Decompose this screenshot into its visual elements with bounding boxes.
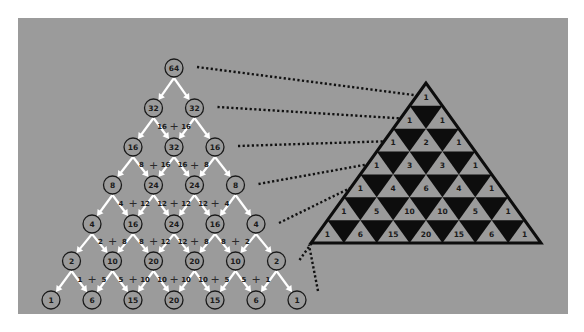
split-value-left: 10 <box>157 276 167 284</box>
split-value-right: 16 <box>161 161 171 169</box>
cell-value: 15 <box>388 230 398 239</box>
tree-node: 10 <box>227 252 245 270</box>
cell-value: 10 <box>437 207 447 216</box>
split-value-left: 12 <box>178 238 188 246</box>
node-value: 20 <box>148 257 158 266</box>
arrow-shaft <box>277 271 290 288</box>
tree-node: 32 <box>165 138 183 156</box>
tree-node: 2 <box>268 252 286 270</box>
split-value-right: 8 <box>204 161 209 169</box>
split-value-left: 5 <box>119 276 124 284</box>
cell-value: 20 <box>421 230 431 239</box>
dotted-connector <box>238 141 385 146</box>
tree-node: 16 <box>206 138 224 156</box>
node-value: 8 <box>233 181 238 190</box>
arrow-shaft <box>59 271 72 288</box>
tree-node: 20 <box>145 252 163 270</box>
node-value: 10 <box>230 257 240 266</box>
cell-value: 10 <box>404 207 414 216</box>
split-value-right: 1 <box>266 276 271 284</box>
split-value-right: 4 <box>225 200 230 208</box>
split-value-right: 16 <box>181 123 191 131</box>
arrow-shaft <box>100 195 113 212</box>
node-value: 24 <box>148 181 158 190</box>
arrow-shaft <box>121 157 133 173</box>
dotted-connector <box>218 107 402 118</box>
tree-node: 2 <box>63 252 81 270</box>
node-value: 32 <box>148 104 158 113</box>
split-value-left: 2 <box>98 238 103 246</box>
plus-sign: + <box>108 235 117 248</box>
cell-value: 6 <box>358 230 363 239</box>
cell-value: 5 <box>374 207 379 216</box>
arrow-shaft <box>174 78 187 96</box>
node-value: 64 <box>169 64 179 73</box>
cell-value: 6 <box>423 184 428 193</box>
cell-value: 1 <box>407 116 412 125</box>
dotted-connector <box>309 245 318 291</box>
split-value-left: 5 <box>242 276 247 284</box>
cell-value: 2 <box>423 138 428 147</box>
cell-value: 3 <box>407 161 412 170</box>
node-value: 15 <box>210 296 220 305</box>
plus-sign: + <box>231 235 240 248</box>
tree-node: 16 <box>124 138 142 156</box>
arrow-shaft <box>215 157 227 173</box>
plus-sign: + <box>87 273 96 286</box>
cell-value: 15 <box>454 230 464 239</box>
cell-value: 1 <box>440 116 445 125</box>
plus-sign: + <box>190 159 199 172</box>
cell-value: 4 <box>456 184 461 193</box>
tree-node: 24 <box>186 176 204 194</box>
plus-sign: + <box>190 235 199 248</box>
plus-sign: + <box>169 273 178 286</box>
node-value: 16 <box>128 143 138 152</box>
split-value-left: 1 <box>78 276 83 284</box>
split-value-left: 16 <box>157 123 167 131</box>
node-value: 1 <box>48 296 53 305</box>
node-value: 16 <box>128 220 138 229</box>
tree-node: 4 <box>247 215 265 233</box>
cell-value: 1 <box>341 207 346 216</box>
cell-value: 1 <box>358 184 363 193</box>
plus-sign: + <box>210 273 219 286</box>
node-value: 2 <box>274 257 279 266</box>
arrow-shaft <box>80 234 92 249</box>
plus-sign: + <box>149 235 158 248</box>
split-value-left: 8 <box>139 161 144 169</box>
cell-value: 1 <box>489 184 494 193</box>
tree-node: 24 <box>165 215 183 233</box>
split-value-right: 10 <box>140 276 150 284</box>
tree-node: 15 <box>206 291 224 309</box>
split-value-left: 16 <box>178 161 188 169</box>
node-value: 15 <box>128 296 138 305</box>
split-value-right: 5 <box>225 276 230 284</box>
plus-sign: + <box>169 120 178 133</box>
node-value: 1 <box>294 296 299 305</box>
tree-node: 20 <box>165 291 183 309</box>
plus-sign: + <box>128 273 137 286</box>
tree-node: 20 <box>186 252 204 270</box>
tree-node: 24 <box>145 176 163 194</box>
split-value-right: 12 <box>140 200 150 208</box>
split-value-left: 12 <box>198 200 208 208</box>
node-value: 24 <box>189 181 199 190</box>
arrow-shaft <box>161 78 174 96</box>
node-value: 32 <box>189 104 199 113</box>
tree-node: 16 <box>206 215 224 233</box>
tree-node: 10 <box>104 252 122 270</box>
split-value-left: 8 <box>221 238 226 246</box>
node-value: 6 <box>89 296 94 305</box>
node-value: 8 <box>110 181 115 190</box>
split-value-right: 8 <box>204 238 209 246</box>
split-value-right: 8 <box>122 238 127 246</box>
cell-value: 1 <box>506 207 511 216</box>
split-value-right: 12 <box>181 200 191 208</box>
plus-sign: + <box>210 197 219 210</box>
cell-value: 4 <box>391 184 396 193</box>
split-value-right: 10 <box>181 276 191 284</box>
split-value-right: 5 <box>102 276 107 284</box>
tree-node: 6 <box>83 291 101 309</box>
arrow-shaft <box>141 118 154 135</box>
node-value: 20 <box>189 257 199 266</box>
